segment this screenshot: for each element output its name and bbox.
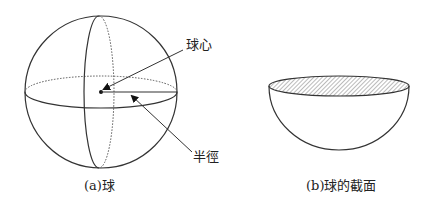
center-arrow xyxy=(104,50,183,89)
cross-section-surface xyxy=(269,76,409,96)
radius-label: 半徑 xyxy=(193,150,219,163)
caption-a: (a)球 xyxy=(84,179,115,192)
meridian-front xyxy=(84,16,99,168)
radius-arrow xyxy=(132,96,192,152)
hemisphere-figure xyxy=(269,76,409,150)
equator-front xyxy=(25,92,177,108)
equator-back xyxy=(25,76,177,92)
diagram-canvas xyxy=(0,0,429,208)
center-label: 球心 xyxy=(186,38,212,51)
caption-b: (b)球的截面 xyxy=(306,179,376,192)
sphere-figure xyxy=(25,16,192,168)
